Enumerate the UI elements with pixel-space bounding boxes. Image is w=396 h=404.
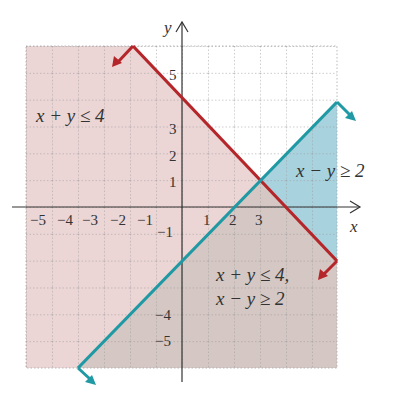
x-tick: 2 xyxy=(229,212,237,228)
y-tick: −4 xyxy=(155,307,171,323)
x-tick: −3 xyxy=(82,212,98,228)
region-sum-label: x + y ≤ 4 xyxy=(35,105,105,126)
x-tick: −5 xyxy=(30,212,46,228)
y-tick: 1 xyxy=(169,174,177,190)
x-tick: 1 xyxy=(203,212,211,228)
region-both-label-2: x − y ≥ 2 xyxy=(215,288,285,309)
y-tick: −1 xyxy=(157,224,173,240)
y-tick: −5 xyxy=(155,333,171,349)
x-axis-label: x xyxy=(349,217,358,236)
x-tick: 3 xyxy=(255,212,263,228)
x-tick: −4 xyxy=(57,212,73,228)
y-tick: 2 xyxy=(169,148,177,164)
region-diff-label: x − y ≥ 2 xyxy=(295,160,365,181)
y-tick: 5 xyxy=(169,67,177,83)
inequality-graph: y x −5 −4 −3 −2 −1 1 2 3 5 3 2 1 −1 −4 −… xyxy=(0,0,396,404)
teal-arrow-top-icon xyxy=(337,102,350,115)
y-tick: 3 xyxy=(169,121,177,137)
teal-arrow-bottom-icon xyxy=(78,368,90,379)
x-tick: −2 xyxy=(110,212,126,228)
region-both-label-1: x + y ≤ 4, xyxy=(215,264,289,285)
y-axis-label: y xyxy=(162,18,172,37)
x-tick: −1 xyxy=(137,212,153,228)
